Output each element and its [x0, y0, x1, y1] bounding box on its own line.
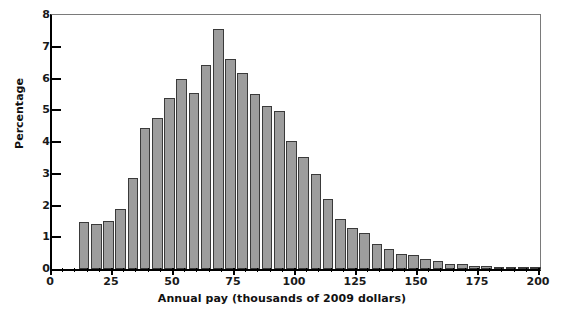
y-tick-mark	[52, 78, 61, 80]
histogram-bar	[79, 222, 90, 269]
x-axis-tick-marks	[50, 268, 540, 275]
histogram-bar	[359, 233, 370, 269]
x-minor-tick-mark	[87, 268, 88, 272]
x-minor-tick-mark	[440, 268, 441, 272]
x-minor-tick-mark	[135, 268, 136, 272]
x-tick-label: 200	[518, 276, 558, 287]
x-tick-label: 50	[152, 276, 192, 287]
x-minor-tick-mark	[99, 268, 100, 272]
x-tick-label: 150	[396, 276, 436, 287]
y-axis-title: Percentage	[13, 59, 26, 169]
histogram-bar	[225, 59, 236, 269]
histogram-bar	[128, 178, 139, 269]
histogram-bar	[164, 98, 175, 269]
histogram-bar	[213, 29, 224, 269]
y-tick-label: 5	[28, 104, 50, 115]
x-axis-tick-labels: 0255075100125150175200	[0, 276, 564, 292]
x-minor-tick-mark	[453, 268, 454, 272]
x-axis-title: Annual pay (thousands of 2009 dollars)	[0, 292, 564, 305]
x-minor-tick-mark	[74, 268, 75, 272]
histogram-bar	[396, 254, 407, 269]
x-minor-tick-mark	[306, 268, 307, 272]
x-major-tick-mark	[355, 268, 357, 275]
x-tick-label: 75	[213, 276, 253, 287]
y-tick-label: 1	[28, 231, 50, 242]
x-minor-tick-mark	[343, 268, 344, 272]
histogram-bar	[262, 106, 273, 269]
histogram-bar	[347, 228, 358, 269]
x-minor-tick-mark	[514, 268, 515, 272]
x-minor-tick-mark	[221, 268, 222, 272]
x-minor-tick-mark	[282, 268, 283, 272]
x-minor-tick-mark	[392, 268, 393, 272]
y-tick-label: 6	[28, 72, 50, 83]
x-tick-label: 0	[30, 276, 70, 287]
x-minor-tick-mark	[184, 268, 185, 272]
x-minor-tick-mark	[148, 268, 149, 272]
x-major-tick-mark	[172, 268, 174, 275]
x-minor-tick-mark	[331, 268, 332, 272]
x-minor-tick-mark	[270, 268, 271, 272]
y-tick-mark	[52, 205, 61, 207]
y-tick-mark	[52, 46, 61, 48]
x-minor-tick-mark	[196, 268, 197, 272]
x-minor-tick-mark	[209, 268, 210, 272]
x-minor-tick-mark	[245, 268, 246, 272]
histogram-bar	[237, 73, 248, 269]
y-tick-label: 4	[28, 136, 50, 147]
histogram-bar	[372, 244, 383, 269]
x-minor-tick-mark	[489, 268, 490, 272]
x-minor-tick-mark	[62, 268, 63, 272]
x-minor-tick-mark	[123, 268, 124, 272]
histogram-bar	[384, 249, 395, 269]
histogram-bar	[91, 224, 102, 269]
histogram-bar	[298, 157, 309, 269]
x-tick-label: 100	[274, 276, 314, 287]
y-tick-label: 8	[28, 9, 50, 20]
x-tick-label: 25	[91, 276, 131, 287]
x-minor-tick-mark	[404, 268, 405, 272]
x-minor-tick-mark	[526, 268, 527, 272]
x-minor-tick-mark	[257, 268, 258, 272]
histogram-figure: 012345678 0255075100125150175200 Annual …	[0, 0, 564, 314]
y-tick-mark	[52, 141, 61, 143]
y-tick-mark	[52, 173, 61, 175]
histogram-bar	[189, 93, 200, 269]
histogram-bar	[250, 94, 261, 269]
histogram-bar	[274, 111, 285, 269]
x-minor-tick-mark	[428, 268, 429, 272]
x-major-tick-mark	[294, 268, 296, 275]
bar-series	[52, 15, 540, 269]
x-major-tick-mark	[477, 268, 479, 275]
histogram-bar	[286, 141, 297, 269]
histogram-bar	[103, 221, 114, 269]
histogram-bar	[408, 255, 419, 269]
x-major-tick-mark	[50, 268, 52, 275]
histogram-bar	[115, 209, 126, 269]
x-minor-tick-mark	[318, 268, 319, 272]
y-tick-label: 7	[28, 40, 50, 51]
x-minor-tick-mark	[160, 268, 161, 272]
x-minor-tick-mark	[379, 268, 380, 272]
y-tick-label: 0	[28, 263, 50, 274]
x-minor-tick-mark	[465, 268, 466, 272]
x-major-tick-mark	[111, 268, 113, 275]
x-tick-label: 125	[335, 276, 375, 287]
x-major-tick-mark	[538, 268, 540, 275]
histogram-bar	[335, 219, 346, 269]
y-tick-mark	[52, 236, 61, 238]
histogram-bar	[176, 79, 187, 270]
histogram-bar	[140, 128, 151, 269]
x-major-tick-mark	[233, 268, 235, 275]
x-tick-label: 175	[457, 276, 497, 287]
x-minor-tick-mark	[367, 268, 368, 272]
histogram-bar	[201, 65, 212, 269]
histogram-bar	[323, 199, 334, 269]
x-major-tick-mark	[416, 268, 418, 275]
y-tick-label: 2	[28, 199, 50, 210]
y-tick-label: 3	[28, 167, 50, 178]
histogram-bar	[152, 118, 163, 269]
histogram-bar	[311, 174, 322, 269]
plot-area	[50, 14, 541, 271]
y-tick-mark	[52, 109, 61, 111]
